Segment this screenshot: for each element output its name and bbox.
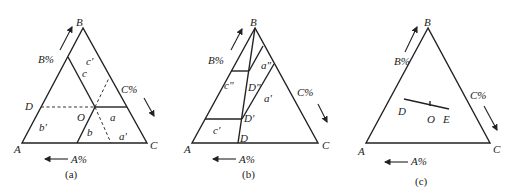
- region-b-label: b: [87, 126, 93, 138]
- panel-a: B A C B% C% A% D O c' c a a' b b' (a): [13, 16, 158, 181]
- c-percent-label: C%: [121, 83, 138, 95]
- point-d-label: D: [24, 100, 33, 112]
- point-e-label: E: [442, 113, 450, 125]
- arrow-c-percent-icon: [484, 106, 497, 130]
- region-c-double-prime-label: c": [224, 79, 234, 91]
- region-c-prime-label: c': [86, 55, 94, 67]
- arrow-b-percent-icon: [231, 29, 242, 50]
- vertex-b-label: B: [250, 16, 257, 28]
- point-d-double-prime-label: D": [247, 81, 261, 93]
- region-a-label: a: [110, 111, 116, 123]
- vertex-b-label: B: [424, 16, 431, 28]
- region-a-prime-label: a': [264, 92, 273, 104]
- dashed-line-o-up: [95, 78, 109, 107]
- triangle-abc: [366, 28, 490, 143]
- caption-a: (a): [65, 168, 78, 181]
- point-d-label: D: [239, 132, 248, 144]
- c-percent-label: C%: [297, 86, 314, 98]
- panel-b: B A C B% C% A% D D' D" c" c' a" a' (b): [183, 16, 330, 181]
- c-percent-label: C%: [470, 89, 487, 101]
- vertex-b-label: B: [76, 16, 83, 28]
- b-percent-label: B%: [38, 53, 54, 65]
- point-o-label: O: [427, 113, 435, 125]
- region-c-label: c: [82, 67, 87, 79]
- point-d-prime-label: D': [243, 112, 255, 124]
- dashed-line-o-down: [95, 107, 111, 143]
- vertex-c-label: C: [322, 139, 330, 151]
- caption-b: (b): [242, 168, 255, 181]
- region-a-prime-label: a': [119, 130, 128, 142]
- vertex-c-label: C: [493, 143, 501, 155]
- b-percent-label: B%: [394, 55, 410, 67]
- vertex-a-label: A: [183, 143, 191, 155]
- a-percent-label: A%: [410, 155, 427, 167]
- region-c-prime-label: c': [213, 124, 221, 136]
- region-a-double-prime-label: a": [261, 59, 272, 71]
- a-percent-label: A%: [70, 153, 87, 165]
- arrow-c-percent-icon: [318, 104, 327, 122]
- panel-c: B A C B% C% A% D O E (c): [357, 16, 501, 188]
- arrow-b-percent-icon: [405, 27, 417, 52]
- region-b-prime-label: b': [39, 121, 48, 133]
- vertex-a-label: A: [357, 145, 365, 157]
- b-percent-label: B%: [208, 54, 224, 66]
- line-d-to-e: [404, 99, 449, 109]
- vertex-c-label: C: [150, 139, 158, 151]
- point-o-label: O: [77, 111, 85, 123]
- vertex-a-label: A: [13, 143, 21, 155]
- ternary-diagrams-figure: B A C B% C% A% D O c' c a a' b b' (a) B …: [0, 0, 506, 194]
- caption-c: (c): [415, 175, 428, 188]
- point-d-label: D: [397, 105, 406, 117]
- a-percent-label: A%: [238, 153, 255, 165]
- arrow-b-percent-icon: [60, 27, 72, 50]
- arrow-c-percent-icon: [144, 98, 154, 116]
